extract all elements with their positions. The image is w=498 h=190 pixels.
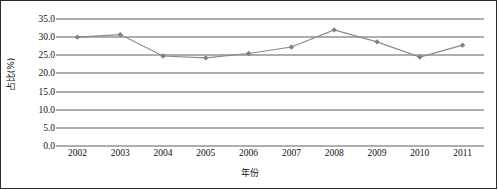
data-point-marker	[417, 54, 422, 59]
y-axis-tick: 15.0	[38, 87, 55, 97]
x-axis-tick: 2010	[410, 148, 429, 158]
data-point-marker	[203, 55, 208, 60]
data-point-marker	[460, 42, 465, 47]
data-point-marker	[118, 32, 123, 37]
y-axis-tick: 20.0	[38, 68, 55, 78]
y-axis-tick: 35.0	[38, 14, 55, 24]
y-axis-label: 占比(%)	[3, 1, 19, 147]
x-axis-tick: 2006	[239, 148, 258, 158]
data-point-marker	[75, 34, 80, 39]
series-line-chart	[56, 19, 484, 146]
x-axis-tick: 2002	[68, 148, 87, 158]
y-axis-tick: 25.0	[38, 50, 55, 60]
x-axis-label: 年份	[1, 166, 498, 179]
y-axis-tick: 5.0	[43, 123, 55, 133]
data-point-marker	[374, 39, 379, 44]
y-axis-label-text: 占比(%)	[5, 57, 18, 91]
series-line	[77, 30, 462, 58]
x-axis-tick: 2004	[154, 148, 173, 158]
data-point-marker	[289, 44, 294, 49]
x-axis-tick: 2007	[282, 148, 301, 158]
x-axis-tick: 2003	[111, 148, 130, 158]
data-point-marker	[160, 53, 165, 58]
data-point-marker	[332, 27, 337, 32]
x-axis-tick: 2005	[196, 148, 215, 158]
chart-figure: 占比(%) 35.030.025.020.015.010.05.00.0 200…	[0, 0, 497, 189]
x-axis-tick: 2011	[453, 148, 472, 158]
plot-area	[56, 19, 484, 146]
y-axis-tick: 30.0	[38, 32, 55, 42]
y-axis-tick: 0.0	[43, 141, 55, 151]
x-axis-tick: 2009	[368, 148, 387, 158]
y-axis-tick: 10.0	[38, 105, 55, 115]
x-axis-tick: 2008	[325, 148, 344, 158]
y-axis-tick-labels: 35.030.025.020.015.010.05.00.0	[19, 13, 55, 147]
x-axis-tick-labels: 2002200320042005200620072008200920102011	[56, 148, 484, 162]
data-point-marker	[246, 51, 251, 56]
